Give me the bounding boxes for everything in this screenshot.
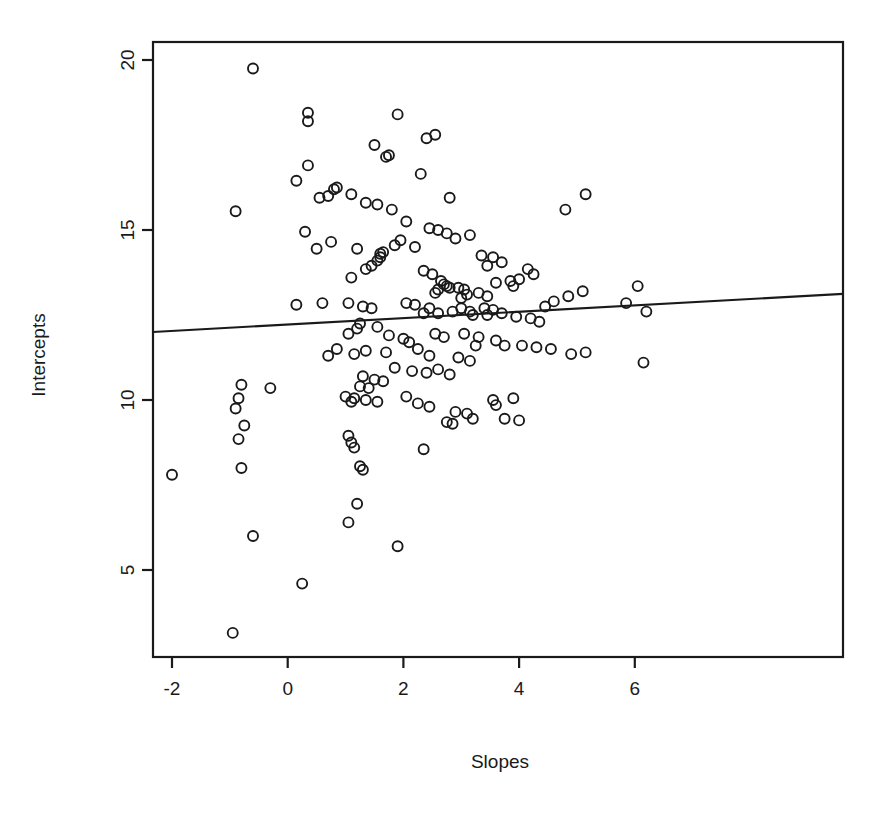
scatter-point	[231, 206, 241, 216]
scatter-point	[372, 200, 382, 210]
scatter-point	[407, 366, 417, 376]
x-tick-label: -2	[164, 678, 181, 699]
scatter-point	[291, 300, 301, 310]
scatter-point	[508, 393, 518, 403]
scatter-point	[453, 353, 463, 363]
scatter-points	[167, 64, 651, 638]
scatter-point	[459, 329, 469, 339]
scatter-point	[424, 351, 434, 361]
scatter-point	[514, 415, 524, 425]
scatter-point	[482, 291, 492, 301]
scatter-point	[393, 109, 403, 119]
scatter-point	[563, 291, 573, 301]
scatter-point	[352, 499, 362, 509]
scatter-point	[265, 383, 275, 393]
scatter-point	[401, 217, 411, 227]
scatter-point	[433, 364, 443, 374]
y-tick-label: 5	[117, 565, 138, 576]
scatter-point	[482, 261, 492, 271]
scatter-point	[491, 278, 501, 288]
scatter-point	[369, 140, 379, 150]
scatter-point	[346, 189, 356, 199]
scatter-point	[497, 257, 507, 267]
scatter-point	[248, 531, 258, 541]
scatter-point	[231, 404, 241, 414]
regression-line	[153, 294, 843, 332]
scatter-point	[427, 269, 437, 279]
scatter-point	[332, 344, 342, 354]
scatter-point	[236, 380, 246, 390]
y-tick-label: 15	[117, 219, 138, 240]
y-axis-title: Intercepts	[28, 313, 49, 396]
scatter-point	[424, 402, 434, 412]
scatter-point	[578, 286, 588, 296]
x-tick-label: 4	[514, 678, 525, 699]
scatter-point	[416, 169, 426, 179]
plot-frame	[153, 42, 843, 657]
y-tick-label: 10	[117, 389, 138, 410]
scatter-point	[445, 193, 455, 203]
scatter-point	[167, 470, 177, 480]
scatter-point	[317, 298, 327, 308]
scatter-point	[546, 344, 556, 354]
scatter-point	[422, 133, 432, 143]
scatter-point	[312, 244, 322, 254]
scatter-point	[300, 227, 310, 237]
scatter-point	[448, 419, 458, 429]
scatter-point	[581, 189, 591, 199]
scatter-point	[465, 230, 475, 240]
scatter-point	[352, 244, 362, 254]
scatter-point	[390, 363, 400, 373]
scatter-point	[361, 198, 371, 208]
scatter-point	[381, 152, 391, 162]
scatter-point	[534, 317, 544, 327]
scatter-point	[361, 346, 371, 356]
scatter-point	[234, 393, 244, 403]
scatter-point	[291, 176, 301, 186]
scatter-point	[239, 421, 249, 431]
scatter-point	[326, 237, 336, 247]
scatter-point	[560, 205, 570, 215]
scatter-point	[343, 517, 353, 527]
scatter-point	[450, 234, 460, 244]
axis-ticks	[142, 60, 635, 668]
scatter-point	[419, 444, 429, 454]
scatter-point	[248, 64, 258, 74]
scatter-plot-figure: -202465101520 Slopes Intercepts	[0, 0, 887, 814]
scatter-point	[393, 541, 403, 551]
scatter-point	[361, 395, 371, 405]
scatter-point	[477, 251, 487, 261]
y-tick-label: 20	[117, 49, 138, 70]
scatter-point	[372, 397, 382, 407]
scatter-point	[531, 342, 541, 352]
scatter-point	[566, 349, 576, 359]
scatter-point	[401, 392, 411, 402]
scatter-point	[358, 371, 368, 381]
scatter-point	[633, 281, 643, 291]
scatter-point	[236, 463, 246, 473]
scatter-point	[500, 414, 510, 424]
scatter-point	[445, 370, 455, 380]
scatter-point	[343, 298, 353, 308]
x-tick-label: 2	[398, 678, 409, 699]
scatter-point	[641, 307, 651, 317]
scatter-point	[297, 579, 307, 589]
scatter-point	[413, 344, 423, 354]
scatter-point	[439, 332, 449, 342]
scatter-point	[422, 368, 432, 378]
scatter-point	[384, 330, 394, 340]
scatter-point	[349, 349, 359, 359]
x-tick-label: 0	[282, 678, 293, 699]
scatter-point	[581, 347, 591, 357]
scatter-point	[381, 347, 391, 357]
x-axis-title: Slopes	[471, 751, 529, 772]
scatter-point	[517, 341, 527, 351]
scatter-point	[323, 351, 333, 361]
chart-canvas: -202465101520 Slopes Intercepts	[0, 0, 887, 814]
scatter-point	[303, 160, 313, 170]
scatter-point	[410, 242, 420, 252]
scatter-point	[228, 628, 238, 638]
scatter-point	[450, 407, 460, 417]
scatter-point	[343, 329, 353, 339]
scatter-point	[234, 434, 244, 444]
